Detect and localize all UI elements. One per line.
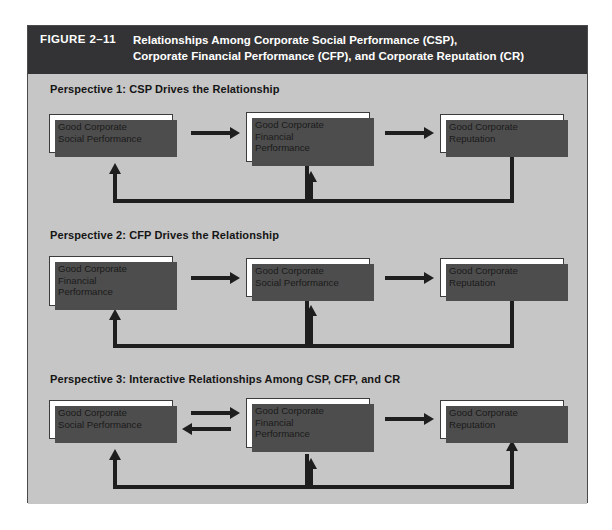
perspective-3-title: Perspective 3: Interactive Relationships… [50,373,400,385]
node-text-line-2: Reputation [449,419,563,431]
node-text-line-1: Good Corporate [58,407,172,419]
figure-title-line-1: Relationships Among Corporate Social Per… [133,33,524,49]
feedback-node2-to-node1-horizontal [113,344,309,348]
perspective-1-node-3: Good Corporate Reputation [440,114,564,153]
feedback-node3-to-node2-vertical-left [309,182,313,203]
perspective-1-title: Perspective 1: CSP Drives the Relationsh… [50,83,280,95]
perspective-2-node-2: Good Corporate Social Performance [246,258,370,297]
node-text-line-1: Good Corporate [58,121,172,133]
perspective-3-node-2: Good Corporate Financial Performance [246,398,370,448]
arrow-node2-to-node3 [385,131,425,135]
feedback-node3-to-node2-horizontal [309,485,514,489]
perspective-3-node-3: Good Corporate Reputation [440,400,564,439]
arrow-node1-to-node2 [191,276,231,280]
feedback-node3-to-node2-vertical-right [510,156,514,203]
node-text-line-1: Good Corporate [58,263,172,275]
arrow-node2-to-node3 [385,276,425,280]
perspective-3-node-1: Good Corporate Social Performance [49,400,173,439]
perspective-2-title: Perspective 2: CFP Drives the Relationsh… [50,229,279,241]
perspective-3: Perspective 3: Interactive Relationships… [28,365,587,504]
feedback-node2-to-node1-horizontal [113,485,309,489]
node-text-line-1: Good Corporate [449,121,563,133]
node-text-line-2: Social Performance [58,419,172,431]
feedback-node2-to-node3-vertical-right [510,451,514,489]
arrow-node1-to-node2 [191,131,231,135]
node-text-line-2: Financial [58,275,172,287]
feedback-node2-to-node1-arrowhead [109,449,121,460]
arrow-node2-to-node1 [191,427,231,431]
figure-body: Perspective 1: CSP Drives the Relationsh… [28,74,587,504]
node-text-line-1: Good Corporate [449,265,563,277]
perspective-1-node-2: Good Corporate Financial Performance [246,112,370,162]
figure-title-line-2: Corporate Financial Performance (CFP), a… [133,49,524,65]
node-text-line-3: Performance [255,142,369,154]
node-text-line-1: Good Corporate [255,119,369,131]
feedback-node3-to-node2-vertical-right [510,300,514,348]
feedback-node2-to-node1-vertical-left [113,320,117,348]
arrow-node2-to-node3 [385,417,425,421]
node-text-line-1: Good Corporate [255,265,369,277]
feedback-node2-to-node1-arrowhead [109,309,121,320]
feedback-node2-to-node1-horizontal [113,199,309,203]
feedback-node3-to-node2-horizontal [309,199,514,203]
perspective-1-node-1: Good Corporate Social Performance [49,114,173,153]
perspective-2-node-1: Good Corporate Financial Performance [49,256,173,306]
figure-panel: FIGURE 2–11 Relationships Among Corporat… [27,25,588,503]
feedback-node3-to-node2-horizontal [309,344,514,348]
node-text-line-2: Reputation [449,277,563,289]
figure-header: FIGURE 2–11 Relationships Among Corporat… [28,26,587,74]
feedback-node2-to-node1-vertical-left [113,460,117,489]
node-text-line-3: Performance [255,428,369,440]
feedback-node3-to-node2-arrowhead [305,458,317,469]
perspective-2: Perspective 2: CFP Drives the Relationsh… [28,220,587,365]
node-text-line-2: Financial [255,417,369,429]
node-text-line-2: Social Performance [255,277,369,289]
node-text-line-2: Reputation [449,133,563,145]
node-text-line-1: Good Corporate [449,407,563,419]
figure-number: FIGURE 2–11 [40,33,116,45]
feedback-node3-to-node2-arrowhead [305,171,317,182]
node-text-line-2: Social Performance [58,133,172,145]
feedback-node2-to-node1-arrowhead [109,163,121,174]
node-text-line-1: Good Corporate [255,405,369,417]
feedback-node3-to-node2-vertical-left [309,316,313,348]
perspective-2-node-3: Good Corporate Reputation [440,258,564,297]
arrow-node1-to-node2 [191,411,231,415]
node-text-line-3: Performance [58,286,172,298]
figure-title: Relationships Among Corporate Social Per… [133,33,524,64]
perspective-1: Perspective 1: CSP Drives the Relationsh… [28,74,587,220]
feedback-node3-to-node2-arrowhead [305,305,317,316]
node-text-line-2: Financial [255,131,369,143]
feedback-node3-to-node2-vertical-left [309,469,313,489]
feedback-node2-to-node1-vertical-left [113,174,117,203]
